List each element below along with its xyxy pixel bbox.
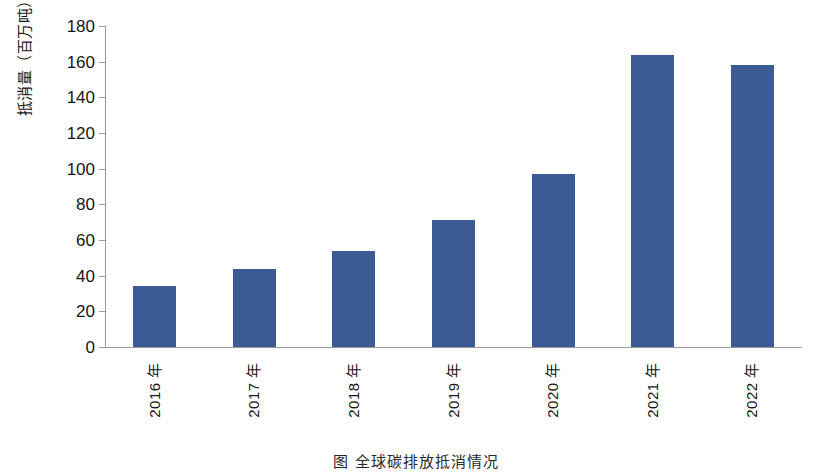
y-axis-tick-label: 60 (47, 232, 95, 249)
x-axis-tick-label: 2019 年 (444, 352, 464, 428)
x-axis-tick-label-text: 2021 年 (643, 352, 663, 428)
y-axis-title: 抵消量（百万吨） (12, 0, 38, 116)
bar (432, 220, 475, 347)
y-axis-tick-mark (99, 169, 105, 170)
y-axis-tick-mark (99, 133, 105, 134)
y-axis-tick-label: 120 (47, 125, 95, 142)
y-axis-tick-label: 0 (47, 339, 95, 356)
y-axis-tick-mark (99, 347, 105, 348)
x-axis-tick-label: 2017 年 (244, 352, 264, 428)
y-axis-tick-mark (99, 240, 105, 241)
plot-area: 020406080100120140160180 (105, 26, 802, 348)
bar (332, 251, 375, 347)
x-axis-tick-label-text: 2020 年 (543, 352, 563, 428)
y-axis-tick-mark (99, 97, 105, 98)
x-axis-tick-label: 2020 年 (543, 352, 563, 428)
bar (133, 286, 176, 347)
y-axis-tick-label: 180 (47, 18, 95, 35)
y-axis-tick-label: 140 (47, 89, 95, 106)
bar (731, 65, 774, 347)
x-axis-tick-label-text: 2018 年 (344, 352, 364, 428)
x-axis-tick-label-text: 2017 年 (244, 352, 264, 428)
x-axis-tick-labels: 2016 年2017 年2018 年2019 年2020 年2021 年2022… (105, 352, 802, 432)
x-axis-tick-label-text: 2022 年 (742, 352, 762, 428)
x-axis-tick-label: 2022 年 (742, 352, 762, 428)
y-axis-tick-mark (99, 62, 105, 63)
y-axis-tick-label: 80 (47, 196, 95, 213)
x-axis-tick-label: 2016 年 (145, 352, 165, 428)
x-axis-tick-label: 2018 年 (344, 352, 364, 428)
bar (631, 55, 674, 347)
y-axis-tick-label: 100 (47, 161, 95, 178)
y-axis-tick-mark (99, 311, 105, 312)
x-axis-line (105, 347, 802, 348)
x-axis-tick-label-text: 2016 年 (145, 352, 165, 428)
y-axis-tick-mark (99, 26, 105, 27)
bar (532, 174, 575, 347)
y-axis-tick-label: 40 (47, 268, 95, 285)
figure-caption: 图 全球碳排放抵消情况 (0, 452, 832, 472)
x-axis-tick-label-text: 2019 年 (444, 352, 464, 428)
y-axis-tick-label: 160 (47, 54, 95, 71)
y-axis-tick-mark (99, 204, 105, 205)
y-axis-tick-label: 20 (47, 303, 95, 320)
x-axis-tick-label: 2021 年 (643, 352, 663, 428)
y-axis-tick-mark (99, 276, 105, 277)
bar (233, 269, 276, 347)
y-axis-line (105, 26, 106, 348)
y-axis-tick-labels: 020406080100120140160180 (43, 26, 95, 348)
